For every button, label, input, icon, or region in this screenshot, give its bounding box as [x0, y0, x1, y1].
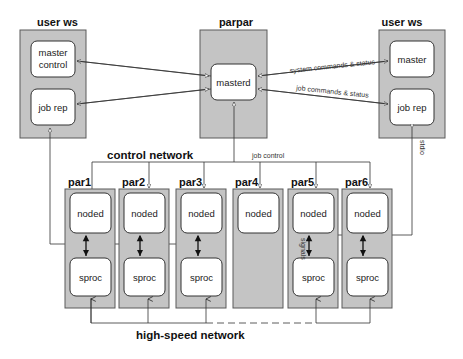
svg-text:par2: par2	[122, 176, 145, 188]
svg-text:noded: noded	[245, 208, 271, 219]
control-network-label: control network	[107, 149, 194, 161]
par1-node: par1 noded sproc	[65, 176, 115, 308]
signals-label: signals	[299, 238, 307, 260]
par4-node: par4 noded	[233, 176, 283, 308]
svg-text:sproc: sproc	[79, 272, 102, 283]
svg-text:par6: par6	[345, 176, 368, 188]
par6-node: par6 noded sproc	[342, 176, 392, 308]
parpar-title: parpar	[219, 16, 254, 28]
svg-text:sproc: sproc	[356, 272, 379, 283]
svg-text:par5: par5	[291, 176, 314, 188]
svg-text:par4: par4	[235, 176, 259, 188]
svg-text:par1: par1	[68, 176, 91, 188]
svg-text:control: control	[39, 59, 68, 70]
svg-text:masterd: masterd	[216, 77, 250, 88]
left-ws-title: user ws	[37, 16, 78, 28]
svg-text:master: master	[38, 47, 67, 58]
job-control-label: job control	[251, 152, 285, 160]
svg-text:noded: noded	[188, 208, 214, 219]
system-commands-label: system commands & status	[289, 58, 375, 75]
svg-text:job rep: job rep	[37, 102, 67, 113]
svg-text:sproc: sproc	[190, 272, 213, 283]
svg-text:sproc: sproc	[133, 272, 156, 283]
parpar-architecture-diagram: user ws master control job rep parpar ma…	[0, 0, 463, 359]
svg-text:noded: noded	[131, 208, 157, 219]
right-user-ws: user ws master job rep	[379, 16, 445, 138]
svg-text:master: master	[397, 54, 426, 65]
par3-node: par3 noded sproc	[176, 176, 226, 308]
left-user-ws: user ws master control job rep	[20, 16, 86, 138]
svg-text:par3: par3	[179, 176, 202, 188]
par5-node: par5 noded sproc signals	[288, 176, 338, 308]
parpar-host: parpar masterd	[200, 16, 267, 138]
svg-text:sproc: sproc	[302, 272, 325, 283]
svg-text:noded: noded	[300, 208, 326, 219]
svg-text:job rep: job rep	[396, 102, 426, 113]
svg-text:noded: noded	[354, 208, 380, 219]
par2-node: par2 noded sproc	[119, 176, 169, 308]
svg-text:noded: noded	[77, 208, 103, 219]
right-ws-title: user ws	[382, 16, 423, 28]
high-speed-network-label: high-speed network	[136, 329, 245, 341]
stdio-label: stdio	[419, 140, 426, 155]
